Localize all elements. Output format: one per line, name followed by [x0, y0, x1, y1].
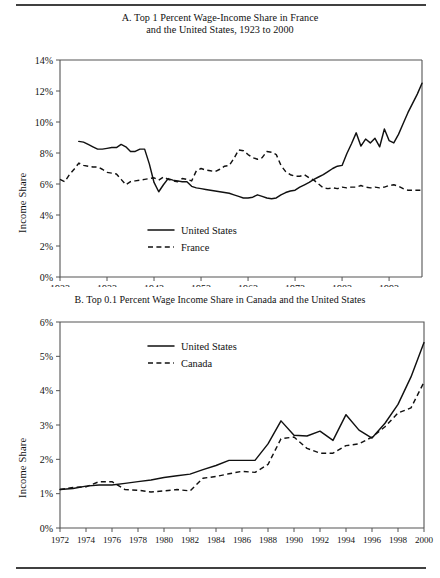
panel-b-plot: 0%1%2%3%4%5%6%19721974197619781980198219…	[0, 306, 440, 556]
panel-a-ylabel: Income Share	[17, 172, 28, 232]
series-line-france	[60, 150, 422, 190]
legend-label-united-states: United States	[181, 341, 237, 352]
x-tick-label: 1982	[181, 535, 200, 545]
y-tick-label: 4%	[40, 386, 53, 397]
plot-frame-top-right	[60, 322, 424, 528]
y-tick-label: 0%	[40, 271, 53, 282]
y-tick-label: 5%	[40, 351, 53, 362]
series-line-united-states	[60, 343, 424, 490]
x-tick-label: 1986	[233, 535, 252, 545]
x-tick-label: 1998	[389, 535, 408, 545]
y-tick-label: 4%	[40, 209, 53, 220]
top-horizontal-rule	[16, 4, 426, 6]
y-tick-label: 6%	[40, 317, 53, 328]
x-tick-label: 1990	[285, 535, 304, 545]
x-tick-label: 1978	[129, 535, 148, 545]
x-tick-label: 1980	[155, 535, 174, 545]
panel-a: A. Top 1 Percent Wage-Income Share in Fr…	[0, 10, 440, 290]
plot-frame	[60, 322, 424, 528]
x-tick-label: 1973	[285, 283, 305, 287]
panel-a-title: A. Top 1 Percent Wage-Income Share in Fr…	[20, 10, 420, 37]
x-tick-label: 1974	[77, 535, 96, 545]
x-tick-label: 2000	[415, 535, 434, 545]
panel-a-chart: Income Share 0%2%4%6%8%10%12%14%19231933…	[0, 37, 440, 287]
panel-b-title: B. Top 0.1 Percent Wage Income Share in …	[5, 294, 435, 306]
x-tick-label: 1923	[50, 283, 70, 287]
panel-b: B. Top 0.1 Percent Wage Income Share in …	[0, 293, 440, 568]
panel-a-title-line2: and the United States, 1923 to 2000	[20, 24, 420, 36]
legend-label-united-states: United States	[181, 225, 237, 236]
panel-b-title-wrap: B. Top 0.1 Percent Wage Income Share in …	[5, 293, 435, 306]
panel-a-plot: 0%2%4%6%8%10%12%14%192319331943195319631…	[0, 37, 440, 287]
figure-page: A. Top 1 Percent Wage-Income Share in Fr…	[0, 0, 440, 578]
plot-frame	[60, 60, 422, 277]
y-tick-label: 0%	[40, 523, 53, 534]
x-tick-label: 1993	[379, 283, 399, 287]
x-tick-label: 1943	[144, 283, 164, 287]
x-tick-label: 1996	[363, 535, 382, 545]
panel-b-chart: Income Share 0%1%2%3%4%5%6%1972197419761…	[0, 306, 440, 556]
x-tick-label: 1994	[337, 535, 356, 545]
y-tick-label: 10%	[35, 116, 53, 127]
y-tick-label: 12%	[35, 85, 53, 96]
x-tick-label: 1933	[97, 283, 117, 287]
x-tick-label: 1988	[259, 535, 278, 545]
x-tick-label: 1953	[191, 283, 211, 287]
x-tick-label: 1984	[207, 535, 226, 545]
x-tick-label: 1983	[332, 283, 352, 287]
panel-a-title-line1: A. Top 1 Percent Wage-Income Share in Fr…	[20, 12, 420, 24]
y-tick-label: 14%	[35, 54, 53, 65]
y-tick-label: 2%	[40, 454, 53, 465]
y-tick-label: 1%	[40, 489, 53, 500]
legend-label-france: France	[181, 242, 210, 253]
y-tick-label: 6%	[40, 178, 53, 189]
x-tick-label: 1976	[103, 535, 122, 545]
panel-b-ylabel: Income Share	[17, 438, 28, 498]
x-tick-label: 1963	[238, 283, 258, 287]
y-tick-label: 2%	[40, 240, 53, 251]
y-tick-label: 3%	[40, 420, 53, 431]
x-tick-label: 1972	[51, 535, 70, 545]
legend-label-canada: Canada	[181, 358, 213, 369]
y-tick-label: 8%	[40, 147, 53, 158]
x-tick-label: 1992	[311, 535, 330, 545]
